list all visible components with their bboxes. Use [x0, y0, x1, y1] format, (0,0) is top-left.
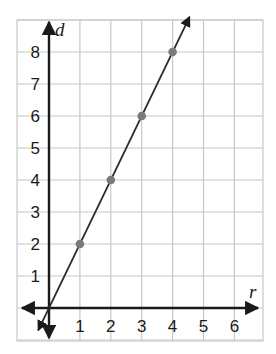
- y-tick-label: 8: [31, 43, 40, 62]
- series-line: [38, 17, 189, 331]
- x-tick-label: 6: [230, 317, 239, 336]
- tick-labels: 12345612345678: [31, 43, 240, 336]
- grid-lines: [17, 20, 263, 341]
- x-axis-label: r: [249, 281, 257, 302]
- data-point: [137, 112, 146, 121]
- y-tick-label: 6: [31, 107, 40, 126]
- data-point: [76, 240, 85, 249]
- x-tick-label: 2: [106, 317, 115, 336]
- x-tick-label: 4: [168, 317, 177, 336]
- y-tick-label: 3: [31, 203, 40, 222]
- y-tick-label: 2: [31, 235, 40, 254]
- y-axis-label: d: [55, 19, 65, 40]
- data-series: [38, 17, 189, 331]
- line-chart: 12345612345678 r d: [0, 0, 276, 354]
- y-tick-label: 1: [31, 267, 40, 286]
- y-tick-label: 5: [31, 139, 40, 158]
- y-tick-label: 4: [31, 171, 40, 190]
- y-tick-label: 7: [31, 75, 40, 94]
- data-point: [107, 176, 116, 185]
- x-tick-label: 5: [199, 317, 208, 336]
- x-tick-label: 1: [75, 317, 84, 336]
- data-point: [168, 48, 177, 57]
- x-tick-label: 3: [137, 317, 146, 336]
